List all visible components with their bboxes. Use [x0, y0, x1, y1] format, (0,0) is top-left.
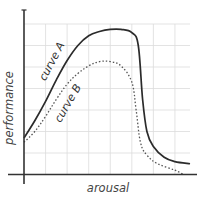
x-axis-label: arousal: [87, 181, 130, 195]
curve-a-label: curve A: [36, 40, 67, 83]
curve-a-line: [24, 29, 190, 164]
chart: performance arousal curve A curve B: [0, 0, 197, 197]
grid: [24, 24, 190, 175]
y-axis-label: performance: [2, 71, 16, 146]
